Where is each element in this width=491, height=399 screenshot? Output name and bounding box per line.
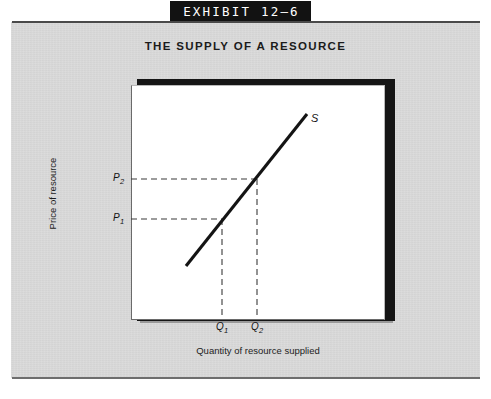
y-tick-label-p2: P2 [113,172,124,183]
x-tick-label-q2-text: Q [251,321,259,332]
exhibit-figure: EXHIBIT 12–6 THE SUPPLY OF A RESOURCE S … [0,0,491,399]
supply-chart: S P2 P1 Q1 Q2 Price of resource Quantity… [0,0,491,399]
y-tick-label-p2-text: P [113,172,120,183]
y-tick-label-p1: P1 [113,212,124,223]
x-tick-label-q1: Q1 [216,321,228,332]
y-tick-label-p2-sub: 2 [120,177,124,186]
plot-drawing-surface [131,85,385,320]
x-axis-title: Quantity of resource supplied [131,345,385,356]
x-tick-label-q1-text: Q [216,321,224,332]
y-tick-label-p1-text: P [113,212,120,223]
supply-curve-line [186,114,307,266]
y-tick-label-p1-sub: 1 [120,217,124,226]
x-tick-label-q1-sub: 1 [224,326,228,335]
y-axis-title: Price of resource [47,94,58,294]
x-tick-label-q2: Q2 [251,321,263,332]
supply-curve-label: S [311,112,318,124]
x-tick-label-q2-sub: 2 [259,326,263,335]
